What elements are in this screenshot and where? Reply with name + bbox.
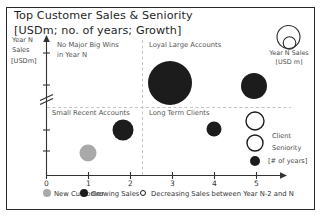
quadrant-label-bottom-right: Long Term Clients <box>149 109 209 117</box>
x-tick-2: 2 <box>125 179 137 188</box>
legend-item-growing-sales: Growing Sales <box>91 190 139 198</box>
x-axis-unit: [# of years] <box>268 157 307 167</box>
bubble-growing <box>250 156 260 166</box>
legend-item-decreasing-sales: Decreasing Sales between Year N-2 and N <box>151 190 294 198</box>
bubble-growing <box>207 122 222 137</box>
bubble-decreasing <box>246 112 264 130</box>
y-axis-unit: [USDm] <box>11 57 37 67</box>
x-axis-label-line2: Seniority <box>272 144 301 154</box>
bubble-growing <box>241 73 267 99</box>
y-axis-label: Year N Sales <box>12 36 33 55</box>
growing-sales-dot-icon <box>80 189 88 197</box>
quadrant-label-top-right: Loyal Large Accounts <box>149 41 221 49</box>
bubble-growing <box>113 120 134 141</box>
x-tick-3: 3 <box>167 179 179 188</box>
x-tick-5: 5 <box>251 179 263 188</box>
decreasing-sales-circle-icon <box>140 190 147 197</box>
x-tick-1: 1 <box>83 179 95 188</box>
bubble-growing <box>148 61 192 105</box>
chart-canvas: Top Customer Sales & Seniority [USDm; no… <box>0 0 321 216</box>
quadrant-label-bottom-left: Small Recent Accounts <box>52 109 130 117</box>
quadrant-label-top-left: No Major Big Wins in Year N <box>57 40 119 60</box>
new-customer-dot-icon <box>43 189 51 197</box>
x-tick-0: 0 <box>41 179 53 188</box>
bubble-size-legend-label: Year N Sales [USD m] <box>261 49 317 67</box>
x-axis-arrow-icon <box>280 172 287 179</box>
x-axis-label-line1: Client <box>272 132 291 142</box>
y-axis-arrow-icon <box>43 35 50 42</box>
bubble-decreasing <box>247 135 263 151</box>
x-tick-4: 4 <box>209 179 221 188</box>
bubble-new <box>80 145 97 162</box>
bubble-size-legend-icon <box>277 26 300 50</box>
